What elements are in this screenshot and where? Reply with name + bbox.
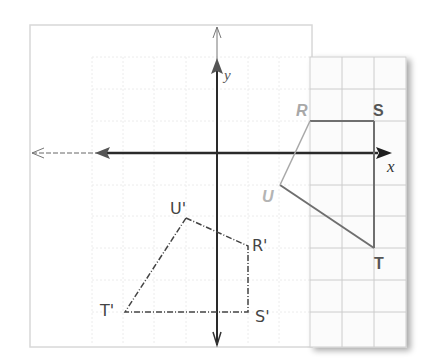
y-axis-label: y bbox=[222, 67, 231, 83]
vertex-label-t: T bbox=[374, 255, 384, 272]
coordinate-plane-figure: x y R S T U U' R' S' bbox=[0, 0, 428, 360]
vertex-label-u: U bbox=[262, 188, 274, 205]
x-axis-label: x bbox=[386, 157, 395, 176]
worksheet-paper bbox=[30, 25, 312, 347]
vertex-label-s: S bbox=[373, 102, 384, 119]
vertex-label-u-prime: U' bbox=[170, 199, 186, 218]
vertex-label-s-prime: S' bbox=[255, 307, 270, 326]
printed-grid-panel bbox=[310, 57, 406, 347]
vertex-label-r-prime: R' bbox=[252, 236, 268, 255]
vertex-label-t-prime: T' bbox=[99, 301, 114, 320]
vertex-label-r: R bbox=[296, 102, 308, 119]
